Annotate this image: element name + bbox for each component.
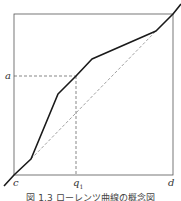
frame-box <box>14 14 173 175</box>
label-q-sub: 1 <box>79 183 83 190</box>
label-d: d <box>168 178 174 188</box>
dashed-chord <box>31 31 156 159</box>
label-q1: q1 <box>73 178 83 190</box>
diagram-canvas <box>0 0 181 201</box>
figure-caption: 図 1.3 ローレンツ曲線の概念図 <box>0 191 181 201</box>
label-c: c <box>13 178 19 188</box>
curve-line <box>4 4 181 186</box>
label-a: a <box>5 71 11 81</box>
